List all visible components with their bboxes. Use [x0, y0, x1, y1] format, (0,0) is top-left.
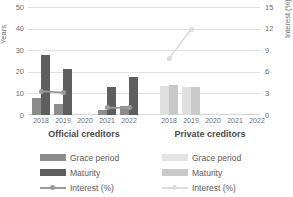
legend-private: Grace period Maturity Interest (%)	[162, 150, 292, 195]
x-label-private-2022: 2022	[246, 117, 268, 124]
y-tick-right-3: 3	[265, 89, 285, 98]
x-label-official-2021: 2021	[96, 117, 118, 124]
legend-item-private-grace: Grace period	[162, 150, 292, 165]
x-label-private-2018: 2018	[158, 117, 180, 124]
interest-line-private-2018-2019	[169, 29, 191, 59]
interest-marker-private-2019	[189, 27, 194, 32]
legend-swatch-maturity-official-icon	[40, 169, 66, 176]
bar-private-maturity-2018	[169, 85, 178, 115]
legend-label-official-maturity: Maturity	[70, 168, 100, 178]
legend-label-official-interest: Interest (%)	[70, 183, 114, 193]
legend-official: Grace period Maturity Interest (%)	[40, 150, 170, 195]
y-tick-left-10: 10	[4, 89, 24, 98]
bar-private-grace-2018	[160, 86, 169, 115]
x-label-official-2019: 2019	[52, 117, 74, 124]
y-tick-right-0: 0	[265, 111, 285, 120]
y-tick-left-40: 40	[4, 24, 24, 33]
bar-official-grace-2018	[32, 98, 41, 115]
bar-private-grace-2019	[182, 87, 191, 115]
bar-official-maturity-2021	[107, 87, 116, 116]
group-label-official: Official creditors	[24, 129, 144, 139]
legend-label-official-grace: Grace period	[70, 153, 119, 163]
y-tick-left-20: 20	[4, 67, 24, 76]
gridline-40	[28, 29, 260, 30]
gridline-30	[28, 50, 260, 51]
bar-private-maturity-2019	[191, 87, 200, 115]
chart-container: Years Interest (%) 50 40 30 20 10 0 15 1…	[0, 0, 293, 197]
y-tick-left-30: 30	[4, 46, 24, 55]
x-label-official-2022: 2022	[118, 117, 140, 124]
legend-item-official-maturity: Maturity	[40, 165, 170, 180]
plot-area	[28, 7, 260, 115]
legend-swatch-interest-official-icon	[40, 184, 66, 191]
gridline-50	[28, 7, 260, 8]
y-tick-left-50: 50	[4, 3, 24, 12]
x-label-private-2021: 2021	[224, 117, 246, 124]
interest-marker-official-2019	[61, 90, 66, 95]
interest-marker-official-2022	[127, 105, 132, 110]
legend-label-private-interest: Interest (%)	[192, 183, 236, 193]
y-tick-right-9: 9	[265, 46, 285, 55]
interest-marker-official-2018	[39, 89, 44, 94]
legend-label-private-maturity: Maturity	[192, 168, 222, 178]
legend-item-official-interest: Interest (%)	[40, 180, 170, 195]
y-tick-right-6: 6	[265, 67, 285, 76]
legend-swatch-interest-private-icon	[162, 184, 188, 191]
interest-marker-private-2018	[167, 56, 172, 61]
legend-swatch-grace-private-icon	[162, 154, 188, 161]
x-label-official-2018: 2018	[30, 117, 52, 124]
legend-swatch-grace-official-icon	[40, 154, 66, 161]
legend-item-private-maturity: Maturity	[162, 165, 292, 180]
legend-swatch-maturity-private-icon	[162, 169, 188, 176]
x-label-private-2019: 2019	[180, 117, 202, 124]
legend-label-private-grace: Grace period	[192, 153, 241, 163]
bar-official-maturity-2018	[41, 55, 50, 115]
legend-item-private-interest: Interest (%)	[162, 180, 292, 195]
bar-official-grace-2021	[98, 110, 107, 115]
x-axis-labels: 2018 2019 2020 2021 2022 2018 2019 2020 …	[28, 117, 260, 129]
y-tick-right-12: 12	[265, 24, 285, 33]
group-label-private: Private creditors	[150, 129, 270, 139]
y-tick-left-0: 0	[4, 111, 24, 120]
legend-item-official-grace: Grace period	[40, 150, 170, 165]
x-label-private-2020: 2020	[202, 117, 224, 124]
bar-official-grace-2019	[54, 104, 63, 115]
y-tick-right-15: 15	[265, 3, 285, 12]
x-label-official-2020: 2020	[74, 117, 96, 124]
interest-marker-official-2021	[105, 105, 110, 110]
